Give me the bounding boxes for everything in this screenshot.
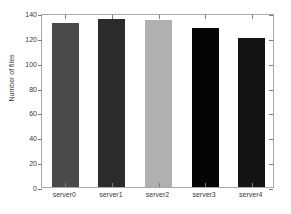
y-tick-label: 100 [25,60,37,67]
y-tick-mark [38,40,42,41]
bar-server2 [145,20,172,187]
x-tick-mark-bottom [112,183,113,187]
x-tick-mark-bottom [65,183,66,187]
y-tick-label: 140 [25,11,37,18]
y-tick-label: 60 [29,110,37,117]
y-tick-label: 40 [29,135,37,142]
x-tick-mark-bottom [159,183,160,187]
bar-server4 [238,38,265,187]
x-tick-label-server3: server3 [192,191,215,199]
x-tick-mark-bottom [252,183,253,187]
x-tick-label-server2: server2 [146,191,169,199]
y-tick-label: 120 [25,35,37,42]
y-tick-mark [38,15,42,16]
x-tick-mark-top [159,15,160,19]
y-tick-mark-right [269,65,273,66]
y-tick-mark-right [269,90,273,91]
x-tick-label-server1: server1 [99,191,122,199]
y-axis-title: Number of files [8,38,16,118]
y-tick-mark-right [269,164,273,165]
x-tick-mark-top [252,15,253,19]
bar-server1 [98,19,125,187]
y-tick-label: 80 [29,85,37,92]
y-tick-mark-right [269,189,273,190]
y-tick-mark-right [269,114,273,115]
x-tick-mark-bottom [205,183,206,187]
y-tick-label: 20 [29,160,37,167]
bar-server3 [192,28,219,187]
x-tick-label-server4: server4 [239,191,262,199]
y-axis-tick-labels: 020406080100120140 [16,14,37,188]
y-tick-mark [38,90,42,91]
y-tick-mark-right [269,40,273,41]
x-axis-tick-labels: server0server1server2server3server4 [41,191,274,203]
x-tick-mark-top [205,15,206,19]
x-tick-label-server0: server0 [53,191,76,199]
y-tick-mark [38,65,42,66]
bar-server0 [52,23,79,187]
bar-chart-figure: Number of files 020406080100120140 serve… [0,0,291,214]
y-tick-label: 0 [33,185,37,192]
bar-series [42,15,273,187]
y-tick-mark-right [269,15,273,16]
x-tick-mark-top [112,15,113,19]
plot-area [41,14,274,188]
y-tick-mark [38,139,42,140]
x-tick-mark-top [65,15,66,19]
y-tick-mark [38,114,42,115]
y-tick-mark [38,189,42,190]
y-tick-mark [38,164,42,165]
y-tick-mark-right [269,139,273,140]
